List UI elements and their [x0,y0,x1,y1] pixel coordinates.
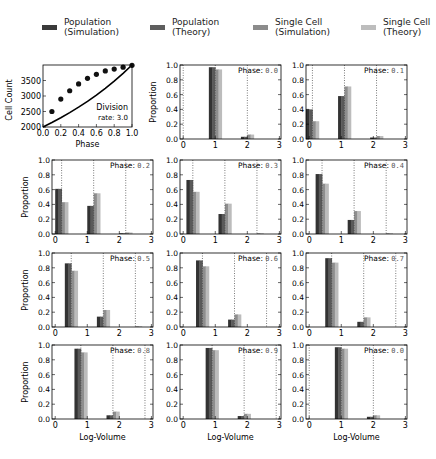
x-tick-label: 0 [307,421,312,430]
y-tick-label: 0.0 [166,415,178,424]
y-tick-label: 0.8 [292,171,304,180]
x-tick-label: 1 [213,421,218,430]
bar [251,135,255,139]
histogram-panel: 01230.00.20.40.60.81.0Phase: 0.2Proporti… [21,156,154,245]
bar [65,202,69,234]
y-tick-label: 1.0 [38,156,50,165]
x-tick-label: 0 [307,236,312,245]
bar [196,192,200,234]
y-tick-label: 0.6 [292,371,304,380]
bar [225,204,229,234]
annotation-title: Division [96,103,128,112]
y-tick-label: 0.6 [166,91,178,100]
y-tick-label: 1.0 [292,61,304,70]
y-tick-label: 0.4 [292,200,304,209]
x-tick-label: 1 [339,329,344,338]
x-tick-label: 0.6 [90,129,103,138]
figure: 0.00.20.40.60.81.02000250030003500PhaseC… [0,0,436,459]
x-tick-label: 3 [149,329,154,338]
histogram-panel: 01230.00.20.40.60.81.0Phase: 0.6 [166,249,282,338]
bar [94,193,98,234]
y-tick-label: 0.2 [292,215,304,224]
x-tick-label: 1 [213,329,218,338]
axes-frame [306,253,407,327]
simulation-marker [85,76,90,81]
bar [74,271,78,327]
bar [65,263,69,327]
x-tick-label: 0 [53,421,58,430]
y-axis-label: Proportion [21,361,30,402]
bar [238,416,242,419]
y-tick-label: 0.6 [166,371,178,380]
y-tick-label: 0.2 [292,308,304,317]
bar [377,415,381,419]
phase-label: Phase: 0.3 [238,161,278,170]
histogram-panel: 01230.00.20.40.60.81.0Phase: 0.5Proporti… [21,249,154,338]
phase-label: Phase: 0.2 [110,161,150,170]
phase-label: Phase: 0.0 [238,66,278,75]
phase-label: Phase: 0.0 [364,346,404,355]
y-tick-label: 0.2 [166,215,178,224]
histogram-panel: 01230.00.20.40.60.81.0Phase: 0.0Log-Volu… [292,341,408,442]
bar [357,322,361,327]
bar [228,204,232,234]
bar [215,69,219,139]
y-tick-label: 0.0 [38,230,50,239]
bar [84,352,88,419]
y-tick-label: 0.4 [292,105,304,114]
bar [316,174,320,234]
bar [74,349,78,419]
y-tick-label: 0.6 [166,186,178,195]
simulation-marker [76,81,81,86]
bar [373,415,377,419]
y-tick-label: 0.6 [38,279,50,288]
x-tick-label: 2 [371,236,376,245]
x-axis-label: Log-Volume [79,433,126,442]
bar [196,260,200,327]
bar [364,317,368,327]
bar [222,214,226,234]
bar [235,314,239,327]
y-tick-label: 0.4 [38,385,50,394]
bar [332,263,336,327]
axes-frame [180,345,281,419]
y-tick-label: 0.4 [166,293,178,302]
axes-frame [306,65,407,139]
phase-label: Phase: 0.8 [110,346,150,355]
x-tick-label: 1 [339,421,344,430]
x-tick-label: 1 [85,236,90,245]
histogram-panel: 01230.00.20.40.60.81.0Phase: 0.8Proporti… [21,341,154,442]
x-tick-label: 3 [149,236,154,245]
y-tick-label: 0.0 [38,415,50,424]
y-tick-label: 2500 [21,108,41,117]
bar [238,314,242,327]
x-tick-label: 2 [117,236,122,245]
x-tick-label: 1 [85,329,90,338]
bar [68,263,72,327]
phase-label: Phase: 0.1 [364,66,404,75]
bar [335,347,339,419]
y-tick-label: 0.0 [292,415,304,424]
bar [81,352,85,419]
y-tick-label: 0.8 [292,76,304,85]
x-tick-label: 3 [403,329,408,338]
phase-label: Phase: 0.7 [364,254,404,263]
y-tick-label: 0.4 [38,293,50,302]
bar [206,266,210,327]
y-tick-label: 0.8 [292,356,304,365]
y-tick-label: 0.2 [166,308,178,317]
x-axis-label: Log-Volume [207,433,254,442]
simulation-marker [67,88,72,93]
phase-label: Phase: 0.4 [364,161,404,170]
y-tick-label: 0.4 [166,385,178,394]
bar [71,271,75,327]
x-tick-label: 3 [403,141,408,150]
y-tick-label: 0.8 [166,171,178,180]
bar [309,109,313,139]
x-tick-label: 1 [339,236,344,245]
x-tick-label: 0 [53,236,58,245]
bar [367,317,371,327]
y-tick-label: 1.0 [292,249,304,258]
x-tick-label: 2 [371,329,376,338]
x-tick-label: 1 [213,141,218,150]
